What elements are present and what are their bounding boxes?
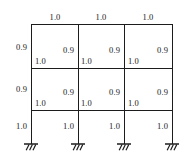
fixed-support-icon-1 [23,143,39,152]
fixed-support-icon-2 [70,143,86,152]
beam-label-level2-span-2: 1.0 [81,99,99,108]
beam-label-level2-span-3: 1.0 [128,99,146,108]
beam-label-level3-span-2: 1.0 [81,57,99,66]
column-label-story1-line1: 1.0 [9,122,27,131]
column-line-2 [78,24,80,145]
beam-level-3 [31,68,174,70]
column-label-story1-line3: 1.0 [102,122,120,131]
column-line-3 [124,24,126,145]
column-label-story3-line2: 0.9 [56,46,74,55]
column-label-story1-line2: 1.0 [56,122,74,131]
beam-label-roof-span-3: 1.0 [139,13,157,22]
structural-frame-diagram: 1.0 1.0 1.0 1.0 1.0 1.0 1.0 1.0 1.0 0.9 … [0,0,186,161]
column-label-story2-line1: 0.9 [9,85,27,94]
beam-level-2 [31,110,174,112]
column-label-story3-line3: 0.9 [102,46,120,55]
beam-label-roof-span-2: 1.0 [92,13,110,22]
fixed-support-icon-3 [116,143,132,152]
fixed-support-icon-4 [164,143,180,152]
column-label-story3-line4: 0.9 [150,46,168,55]
column-label-story2-line2: 0.9 [56,88,74,97]
column-line-4 [172,24,174,145]
column-label-story2-line3: 0.9 [102,88,120,97]
beam-label-level2-span-1: 1.0 [35,99,53,108]
column-line-1 [31,24,33,145]
beam-label-roof-span-1: 1.0 [46,13,64,22]
column-label-story1-line4: 1.0 [150,122,168,131]
beam-label-level3-span-1: 1.0 [35,57,53,66]
beam-label-level3-span-3: 1.0 [128,57,146,66]
column-label-story3-line1: 0.9 [9,43,27,52]
column-label-story2-line4: 0.9 [150,88,168,97]
beam-level-roof [31,24,174,26]
